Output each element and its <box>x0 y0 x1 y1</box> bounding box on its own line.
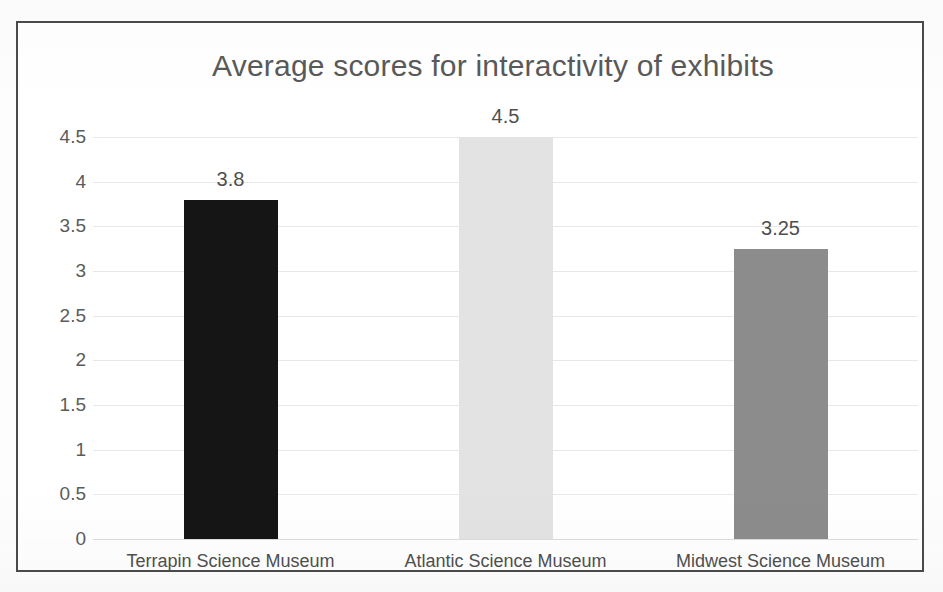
x-axis-category-label: Atlantic Science Museum <box>368 551 643 572</box>
y-axis-tick-label: 3.5 <box>30 215 86 237</box>
bar[interactable] <box>184 200 278 539</box>
y-axis-tick-label: 2 <box>30 349 86 371</box>
gridline <box>93 539 918 540</box>
y-axis-tick-label: 2.5 <box>30 305 86 327</box>
y-axis-tick-label: 4 <box>30 171 86 193</box>
bar[interactable] <box>459 137 553 539</box>
y-axis: 4.543.532.521.510.50 <box>26 137 86 539</box>
x-axis-category-label: Terrapin Science Museum <box>93 551 368 572</box>
bar-value-label: 4.5 <box>436 105 576 128</box>
scanned-page: Average scores for interactivity of exhi… <box>0 0 943 592</box>
y-axis-tick-label: 1 <box>30 439 86 461</box>
bar-value-label: 3.25 <box>711 217 851 240</box>
x-axis: Terrapin Science MuseumAtlantic Science … <box>93 551 918 585</box>
bar[interactable] <box>734 249 828 539</box>
y-axis-tick-label: 0 <box>30 528 86 550</box>
y-axis-tick-label: 3 <box>30 260 86 282</box>
y-axis-tick-label: 1.5 <box>30 394 86 416</box>
plot-area: 3.84.53.25 <box>93 137 918 539</box>
y-axis-tick-label: 0.5 <box>30 483 86 505</box>
bar-value-label: 3.8 <box>161 168 301 191</box>
y-axis-tick-label: 4.5 <box>30 126 86 148</box>
chart-title: Average scores for interactivity of exhi… <box>78 49 908 83</box>
x-axis-category-label: Midwest Science Museum <box>643 551 918 572</box>
chart-frame: Average scores for interactivity of exhi… <box>16 21 924 572</box>
